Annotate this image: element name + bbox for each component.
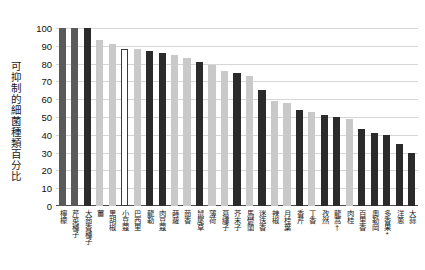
x-tick-label: 芥末子 [233,209,241,230]
y-tick-label: 50 [30,112,52,123]
x-tick-label: 芹菜種子 [71,209,79,237]
y-tick-label: 10 [30,183,52,194]
x-tick-label: 肉豆蔻 [158,209,166,230]
x-tick-label: 馬鬱蘭 [245,209,253,230]
x-axis-category-labels: 檸檬芹菜種子大茴香種子薑黑胡椒小豆蔻巴西里龍勒肉豆蔻蒔蘿茴香鼠尾草薄荷葛縷子芥末… [56,209,418,269]
bar [134,49,141,206]
bar [59,28,66,206]
y-tick-label: 70 [30,76,52,87]
bar [321,115,328,206]
bar [271,101,278,206]
bar [308,112,315,206]
y-tick-label: 0 [30,201,52,212]
x-tick-label: 丁香 [308,209,316,223]
bar-chart: 可抑制的細菌種類百分比 0102030405060708090100 檸檬芹菜種… [0,0,425,270]
bar [396,144,403,206]
x-tick-label: 孜然 [320,209,328,223]
bar [109,44,116,206]
x-tick-label: 奧勒岡 [370,209,378,230]
bar [283,103,290,206]
bar [233,73,240,207]
x-tick-label: 龍勒 [146,209,154,223]
bar [196,62,203,206]
y-tick-label: 80 [30,58,52,69]
x-tick-label: 迷迭香 [258,209,266,230]
bars-container [56,28,418,206]
x-tick-label: 巴西里 [133,209,141,230]
y-tick-label: 20 [30,165,52,176]
x-tick-label: 百里香 [358,209,366,230]
bar [121,49,128,206]
bar [358,129,365,206]
bar [258,90,265,206]
x-tick-label: 多香果* [383,209,391,239]
x-tick-label: 小豆蔻 [121,209,129,230]
x-tick-label: 龍蒿† [333,209,341,232]
bar [208,65,215,206]
bar [159,53,166,206]
x-tick-label: 辣椒 [270,209,278,223]
x-tick-label: 茴香 [183,209,191,223]
y-tick-label: 90 [30,40,52,51]
bar [383,135,390,206]
bar [333,117,340,206]
x-tick-label: 大茴香種子 [83,209,91,244]
bar [296,110,303,206]
bar [183,58,190,206]
bar [146,51,153,206]
bar [71,28,78,206]
bar [221,71,228,206]
bar [346,119,353,206]
y-tick-label: 100 [30,23,52,34]
bar [84,28,91,206]
x-tick-label: 洋蔥 [395,209,403,223]
y-tick-label: 40 [30,129,52,140]
bar [371,133,378,206]
x-tick-label: 黑胡椒 [108,209,116,230]
bar [408,153,415,206]
y-axis-tick-labels: 0102030405060708090100 [26,28,52,206]
y-tick-label: 30 [30,147,52,158]
x-tick-label: 葛縷子 [221,209,229,230]
x-tick-label: 蒔蘿 [171,209,179,223]
x-tick-label: 檸檬 [58,209,66,223]
x-tick-label: 月桂葉 [283,209,291,230]
y-tick-label: 60 [30,94,52,105]
x-tick-label: 大蒜 [408,209,416,223]
bar [246,76,253,206]
x-tick-label: 肉桂 [345,209,353,223]
x-tick-label: 鼠尾草 [196,209,204,230]
x-tick-label: 香芹 [295,209,303,223]
bar [171,55,178,206]
x-tick-label: 薄荷 [208,209,216,223]
bar [96,40,103,206]
y-axis-title: 可抑制的細菌種類百分比 [2,36,20,206]
x-tick-label: 薑 [96,209,104,216]
